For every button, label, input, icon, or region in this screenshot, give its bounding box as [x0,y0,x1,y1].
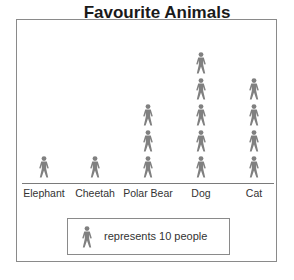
x-axis-line [22,183,274,184]
person-icon [247,104,261,126]
category-label: Polar Bear [118,187,178,199]
person-icon [194,78,208,100]
pictograph-column [19,152,69,178]
pictograph-column [123,100,173,178]
pictograph-column [176,48,226,178]
person-icon [37,156,51,178]
pictograph-column [70,152,120,178]
category-label: Cheetah [65,187,125,199]
person-icon [80,226,94,248]
person-icon [194,52,208,74]
person-icon [247,78,261,100]
person-icon [194,130,208,152]
chart-title: Favourite Animals [0,3,294,23]
legend-text: represents 10 people [104,230,207,242]
person-icon [194,156,208,178]
person-icon [247,130,261,152]
legend-key: represents 10 people [67,218,230,255]
person-icon [247,156,261,178]
person-icon [194,104,208,126]
pictograph-column [229,74,279,178]
person-icon [141,156,155,178]
person-icon [141,130,155,152]
category-label: Cat [224,187,284,199]
category-label: Dog [171,187,231,199]
person-icon [88,156,102,178]
person-icon [141,104,155,126]
